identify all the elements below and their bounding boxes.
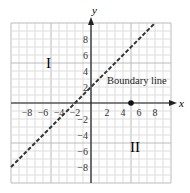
svg-text:−8: −8	[77, 162, 88, 173]
svg-text:2: 2	[105, 107, 110, 118]
svg-text:8: 8	[153, 107, 158, 118]
svg-text:−8: −8	[22, 107, 33, 118]
svg-text:−2: −2	[77, 114, 88, 125]
svg-text:−6: −6	[77, 146, 88, 157]
svg-text:2: 2	[83, 82, 88, 93]
region-II-label: II	[130, 139, 140, 155]
svg-text:4: 4	[83, 66, 88, 77]
svg-text:−4: −4	[77, 130, 88, 141]
test-point	[128, 100, 134, 106]
svg-text:4: 4	[121, 107, 126, 118]
svg-text:−6: −6	[38, 107, 49, 118]
svg-text:6: 6	[137, 107, 142, 118]
x-axis-label: x	[178, 97, 184, 109]
y-axis-label: y	[91, 4, 97, 16]
axes	[11, 17, 177, 183]
coordinate-plane: −8−6−4−224688642−2−4−6−8 y x Boundary li…	[0, 0, 190, 193]
boundary-line-label: Boundary line	[107, 75, 167, 86]
svg-text:6: 6	[83, 50, 88, 61]
region-I-label: I	[46, 55, 51, 71]
svg-text:8: 8	[83, 34, 88, 45]
